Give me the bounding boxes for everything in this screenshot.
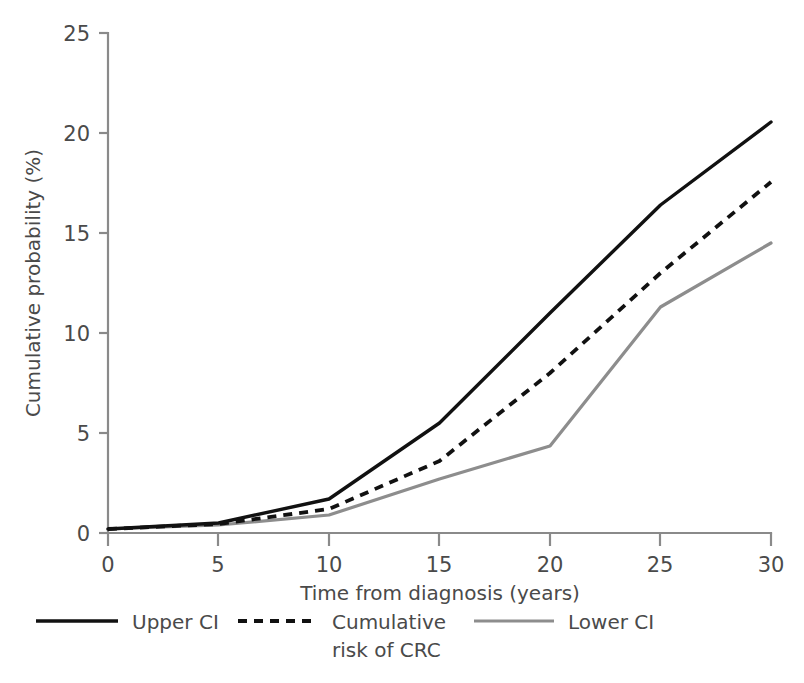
y-tick-label-25: 25 <box>63 22 90 46</box>
x-tick-label-5: 5 <box>211 553 224 577</box>
x-tick-label-10: 10 <box>316 553 343 577</box>
series-line-lower-ci <box>108 243 771 529</box>
chart-figure: 25 20 15 10 5 0 Cumulative probability (… <box>0 0 804 683</box>
x-axis-title: Time from diagnosis (years) <box>299 581 580 605</box>
x-tick-label-0: 0 <box>101 553 114 577</box>
y-tick-label-15: 15 <box>63 222 90 246</box>
series-line-upper-ci <box>108 122 771 529</box>
y-axis-title: Cumulative probability (%) <box>21 149 45 417</box>
legend-label-cumulative-risk-line2: risk of CRC <box>332 638 441 662</box>
x-tick-label-30: 30 <box>758 553 785 577</box>
y-axis: 25 20 15 10 5 0 Cumulative probability (… <box>21 22 108 546</box>
y-tick-label-5: 5 <box>77 422 90 446</box>
y-tick-label-0: 0 <box>77 522 90 546</box>
x-tick-label-25: 25 <box>647 553 674 577</box>
chart-canvas: 25 20 15 10 5 0 Cumulative probability (… <box>0 0 804 683</box>
legend-label-upper-ci: Upper CI <box>132 610 219 634</box>
chart-legend: Upper CI Cumulative risk of CRC Lower CI <box>36 610 654 662</box>
y-tick-label-10: 10 <box>63 322 90 346</box>
legend-label-cumulative-risk: Cumulative <box>332 610 446 634</box>
x-tick-label-15: 15 <box>426 553 453 577</box>
x-axis: 0 5 10 15 20 25 30 Time from diagnosis (… <box>101 533 784 605</box>
data-series-group <box>108 122 771 529</box>
x-tick-label-20: 20 <box>537 553 564 577</box>
series-line-cumulative-risk <box>108 182 771 529</box>
y-tick-label-20: 20 <box>63 122 90 146</box>
legend-label-lower-ci: Lower CI <box>568 610 654 634</box>
